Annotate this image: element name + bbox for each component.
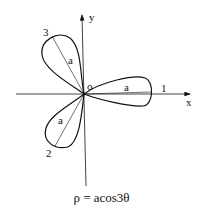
rose-curve-diagram xyxy=(0,0,203,214)
petal-2 xyxy=(45,94,84,148)
origin-label: o xyxy=(87,81,93,92)
equation-caption: ρ = acos3θ xyxy=(0,190,203,206)
y-axis-label: y xyxy=(89,12,95,23)
y-axis xyxy=(82,15,86,186)
petal-1-number: 1 xyxy=(161,83,167,94)
petal-1-radius-label: a xyxy=(124,82,129,93)
petal-2-radius-label: a xyxy=(58,115,63,126)
petal-2-number: 2 xyxy=(46,148,52,159)
petal-3-radius-label: a xyxy=(68,55,73,66)
petal-1 xyxy=(84,77,152,106)
x-axis-label: x xyxy=(186,97,192,108)
petal-3 xyxy=(42,35,84,94)
petal-3-number: 3 xyxy=(43,27,49,38)
